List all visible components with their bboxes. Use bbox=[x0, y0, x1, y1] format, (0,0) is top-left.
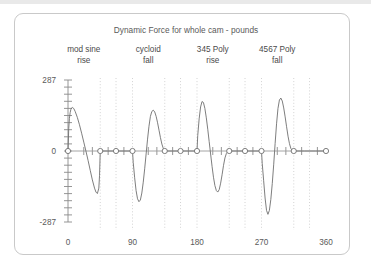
segment-label-line1: mod sine bbox=[67, 45, 101, 54]
zero-crossing-marker bbox=[162, 148, 167, 153]
segment-label-line2: fall bbox=[143, 56, 154, 65]
zero-crossing-marker bbox=[259, 148, 264, 153]
x-tick-label: 180 bbox=[190, 238, 204, 247]
zero-crossing-marker bbox=[178, 148, 183, 153]
zero-crossing-marker bbox=[98, 148, 103, 153]
zero-crossing-marker bbox=[242, 148, 247, 153]
segment-label-line2: rise bbox=[206, 56, 220, 65]
segment-annotations: mod sinerisecycloidfall345 Polyrise4567 … bbox=[67, 45, 296, 65]
segment-label-line1: 4567 Poly bbox=[259, 45, 296, 54]
gridlines bbox=[100, 78, 309, 230]
zero-crossing-marker bbox=[65, 148, 70, 153]
segment-label-line2: fall bbox=[272, 56, 283, 65]
x-tick-label: 90 bbox=[128, 238, 138, 247]
x-axis-labels: 090180270360 bbox=[66, 238, 334, 247]
y-tick-label-zero: 0 bbox=[51, 147, 56, 156]
zero-crossing-marker bbox=[227, 148, 232, 153]
y-tick-label-min: -287 bbox=[40, 218, 57, 227]
zero-crossing-marker bbox=[323, 148, 328, 153]
chart-figure: Dynamic Force for whole cam - pounds mod… bbox=[0, 0, 371, 280]
chart-title: Dynamic Force for whole cam - pounds bbox=[114, 25, 258, 35]
zero-crossing-marker bbox=[291, 148, 296, 153]
y-tick-label-max: 287 bbox=[42, 76, 56, 85]
x-tick-label: 270 bbox=[255, 238, 269, 247]
chart-svg: Dynamic Force for whole cam - pounds mod… bbox=[0, 0, 371, 280]
segment-label-line1: cycloid bbox=[136, 45, 161, 54]
segment-label-line2: rise bbox=[77, 56, 91, 65]
zero-crossing-marker bbox=[130, 148, 135, 153]
x-tick-label: 0 bbox=[66, 238, 71, 247]
zero-crossing-marker bbox=[113, 148, 118, 153]
zero-crossing-marker bbox=[194, 148, 199, 153]
segment-label-line1: 345 Poly bbox=[197, 45, 230, 54]
x-tick-label: 360 bbox=[319, 238, 333, 247]
